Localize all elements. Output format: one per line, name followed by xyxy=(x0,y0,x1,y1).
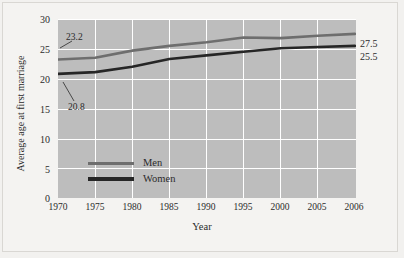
y-tick-text: 20 xyxy=(40,74,50,85)
x-tick-label-1970: 1970 xyxy=(38,202,78,212)
x-tick-label-2005: 2005 xyxy=(297,202,337,212)
y-tick-text: 30 xyxy=(40,14,50,25)
annotation-men-end: 27.5 xyxy=(360,38,378,49)
y-tick-label-25: 25 xyxy=(0,44,50,55)
annotation-women-end: 25.5 xyxy=(360,51,378,62)
x-tick-label-2006: 2006 xyxy=(334,202,374,212)
annotation-women-start: 20.8 xyxy=(68,102,85,112)
x-tick-label-1990: 1990 xyxy=(186,202,226,212)
legend-item-men: Men xyxy=(88,155,175,171)
x-tick-label-1975: 1975 xyxy=(75,202,115,212)
x-tick-label-2000: 2000 xyxy=(260,202,300,212)
y-tick-text: 25 xyxy=(40,44,50,55)
plot-area: Men Women xyxy=(58,19,356,198)
y-tick-text: 5 xyxy=(45,164,50,175)
y-tick-label-5: 5 xyxy=(0,164,50,175)
legend-label-women: Women xyxy=(143,171,175,187)
legend-item-women: Women xyxy=(88,171,175,187)
y-tick-text: 10 xyxy=(40,134,50,145)
y-tick-label-30: 30 xyxy=(0,14,50,25)
x-tick-label-1995: 1995 xyxy=(223,202,263,212)
annotation-men-start: 23.2 xyxy=(66,32,83,42)
x-tick-label-1980: 1980 xyxy=(112,202,152,212)
legend-label-men: Men xyxy=(143,155,162,171)
legend-swatch-women xyxy=(88,177,134,180)
chart-legend: Men Women xyxy=(88,155,175,187)
x-axis-title: Year xyxy=(0,221,404,232)
y-tick-label-20: 20 xyxy=(0,74,50,85)
y-tick-label-15: 15 xyxy=(0,104,50,115)
legend-swatch-men xyxy=(88,162,134,165)
x-tick-label-1985: 1985 xyxy=(149,202,189,212)
chart-figure: Average age at first marriage 30 25 20 1… xyxy=(0,0,404,258)
series-line-women xyxy=(58,46,355,74)
y-tick-text: 15 xyxy=(40,104,50,115)
y-tick-label-10: 10 xyxy=(0,134,50,145)
